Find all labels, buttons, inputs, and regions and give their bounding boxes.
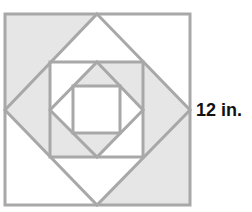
shaded-regions bbox=[5, 14, 190, 205]
dimension-label: 12 in. bbox=[196, 100, 242, 121]
square-3 bbox=[73, 86, 120, 133]
